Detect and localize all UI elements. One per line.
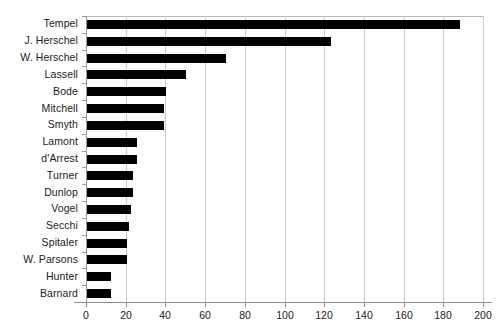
category-label: Smyth	[0, 119, 78, 130]
y-tick	[82, 66, 86, 67]
x-tick-label-140: 140	[344, 309, 384, 321]
x-tick-label-100: 100	[265, 309, 305, 321]
category-label: Secchi	[0, 220, 78, 231]
y-tick	[82, 184, 86, 185]
bar	[87, 171, 133, 180]
category-label: Mitchell	[0, 103, 78, 114]
y-tick	[82, 218, 86, 219]
y-tick	[82, 50, 86, 51]
bar	[87, 54, 226, 63]
x-tick-label-160: 160	[384, 309, 424, 321]
bar	[87, 87, 166, 96]
gridline-140	[364, 16, 365, 302]
y-tick	[82, 151, 86, 152]
x-tick-label-80: 80	[225, 309, 265, 321]
x-tick-40	[165, 303, 166, 307]
x-tick-200	[483, 303, 484, 307]
x-tick-180	[443, 303, 444, 307]
x-tick-140	[364, 303, 365, 307]
y-tick	[82, 134, 86, 135]
gridline-80	[245, 16, 246, 302]
y-tick	[82, 285, 86, 286]
y-tick	[82, 100, 86, 101]
x-tick-label-40: 40	[145, 309, 185, 321]
y-tick	[82, 252, 86, 253]
gridline-120	[324, 16, 325, 302]
bar	[87, 272, 111, 281]
bar	[87, 155, 137, 164]
bar	[87, 104, 164, 113]
y-tick	[82, 83, 86, 84]
bar	[87, 121, 164, 130]
category-label: W. Herschel	[0, 52, 78, 63]
y-tick	[82, 33, 86, 34]
x-tick-label-200: 200	[463, 309, 503, 321]
category-label: Bode	[0, 86, 78, 97]
x-tick-20	[126, 303, 127, 307]
gridline-180	[443, 16, 444, 302]
plot-area	[86, 16, 483, 302]
x-tick-80	[245, 303, 246, 307]
category-label: W. Parsons	[0, 254, 78, 265]
y-tick	[82, 235, 86, 236]
bar	[87, 37, 331, 46]
gridline-200	[483, 16, 484, 302]
x-tick-label-180: 180	[423, 309, 463, 321]
category-axis-labels: TempelJ. HerschelW. HerschelLassellBodeM…	[0, 16, 78, 302]
category-label: Vogel	[0, 203, 78, 214]
y-tick	[82, 268, 86, 269]
bar	[87, 255, 127, 264]
category-label: Tempel	[0, 18, 78, 29]
x-tick-100	[285, 303, 286, 307]
bar	[87, 70, 186, 79]
y-tick	[82, 117, 86, 118]
category-label: Turner	[0, 170, 78, 181]
category-label: Dunlop	[0, 187, 78, 198]
bar-chart: TempelJ. HerschelW. HerschelLassellBodeM…	[0, 0, 504, 336]
bar	[87, 138, 137, 147]
x-tick-160	[404, 303, 405, 307]
category-label: J. Herschel	[0, 35, 78, 46]
x-tick-label-60: 60	[185, 309, 225, 321]
category-label: d'Arrest	[0, 153, 78, 164]
y-tick	[82, 16, 86, 17]
category-label: Barnard	[0, 288, 78, 299]
x-tick-label-0: 0	[66, 309, 106, 321]
bar	[87, 289, 111, 298]
category-label: Spitaler	[0, 237, 78, 248]
bar	[87, 205, 131, 214]
bar	[87, 239, 127, 248]
category-label: Hunter	[0, 271, 78, 282]
gridline-100	[285, 16, 286, 302]
x-tick-label-20: 20	[106, 309, 146, 321]
x-tick-60	[205, 303, 206, 307]
bar	[87, 222, 129, 231]
bar	[87, 20, 460, 29]
x-tick-label-120: 120	[304, 309, 344, 321]
x-axis-line	[74, 302, 492, 303]
category-label: Lamont	[0, 136, 78, 147]
x-tick-120	[324, 303, 325, 307]
y-tick	[82, 167, 86, 168]
bar	[87, 188, 133, 197]
y-tick	[82, 201, 86, 202]
category-label: Lassell	[0, 69, 78, 80]
gridline-160	[404, 16, 405, 302]
x-tick-0	[86, 303, 87, 307]
